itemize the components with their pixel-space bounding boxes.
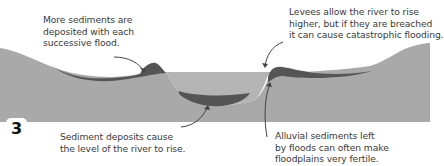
annotation-river-level: Sediment deposits cause the level of the… [60,131,185,154]
arrow-successive-flood [114,57,144,72]
annotation-successive-flood: More sediments are deposited with each s… [43,14,134,49]
step-number-badge: 3 [6,118,27,139]
annotation-levees: Levees allow the river to rise higher, b… [289,6,444,41]
arrow-levees [265,42,283,67]
annotation-alluvial: Alluvial sediments left by floods can of… [275,130,389,165]
